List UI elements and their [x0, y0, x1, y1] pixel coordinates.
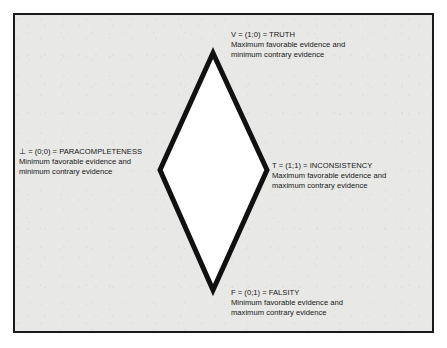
label-falsity-line2: maximum contrary evidence	[231, 308, 343, 318]
label-paracompleteness-line2: minimum contrary evidence	[19, 167, 142, 177]
label-paracompleteness: ⊥ = (0;0) = PARACOMPLETENESS Minimum fav…	[19, 147, 142, 178]
label-paracompleteness-heading: ⊥ = (0;0) = PARACOMPLETENESS	[19, 147, 142, 157]
label-inconsistency-line1: Maximum favorable evidence and	[272, 171, 386, 181]
label-truth-heading: V = (1;0) = TRUTH	[231, 30, 345, 40]
label-paracompleteness-line1: Minimum favorable evidence and	[19, 157, 142, 167]
label-truth-line2: minimum contrary evidence	[231, 50, 345, 60]
label-inconsistency-heading: T = (1;1) = INCONSISTENCY	[272, 161, 386, 171]
label-inconsistency: T = (1;1) = INCONSISTENCY Maximum favora…	[272, 161, 386, 192]
figure-canvas: V = (1;0) = TRUTH Maximum favorable evid…	[0, 0, 447, 348]
label-truth-line1: Maximum favorable evidence and	[231, 40, 345, 50]
label-falsity-heading: F = (0;1) = FALSITY	[231, 288, 343, 298]
label-falsity: F = (0;1) = FALSITY Minimum favorable ev…	[231, 288, 343, 319]
label-inconsistency-line2: maximum contrary evidence	[272, 181, 386, 191]
label-truth: V = (1;0) = TRUTH Maximum favorable evid…	[231, 30, 345, 61]
label-falsity-line1: Minimum favorable evidence and	[231, 298, 343, 308]
